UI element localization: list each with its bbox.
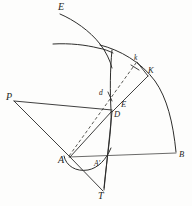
- segment-D-to-T: [104, 112, 112, 190]
- small-arc-at-A: [64, 148, 111, 170]
- label-D-mid: D: [114, 110, 120, 119]
- segment-K-corner: [137, 62, 148, 76]
- figure-canvas: [0, 0, 192, 206]
- label-k-lower: k: [134, 54, 137, 62]
- label-P-left: P: [6, 92, 12, 102]
- label-A-left: A: [58, 155, 64, 165]
- upper-left-arc: [60, 14, 112, 68]
- segment-P-to-A: [14, 101, 70, 157]
- flat-left-arc: [53, 44, 113, 53]
- label-A-prime: A': [94, 160, 100, 168]
- label-d-lower: d: [99, 89, 103, 97]
- segment-A-to-B: [69, 153, 176, 157]
- label-K-upper: K: [148, 66, 154, 75]
- geometric-figure: E k K d E D P A A' B T: [0, 0, 192, 206]
- label-E-top: E: [58, 2, 64, 12]
- segment-A-to-D: [70, 111, 112, 157]
- tick-at-k: [131, 65, 139, 70]
- segment-D-to-K: [112, 76, 148, 112]
- label-T-bottom: T: [98, 191, 104, 201]
- label-E-mid: E: [121, 100, 126, 109]
- segment-P-to-D: [14, 101, 112, 110]
- label-B-right: B: [179, 150, 184, 159]
